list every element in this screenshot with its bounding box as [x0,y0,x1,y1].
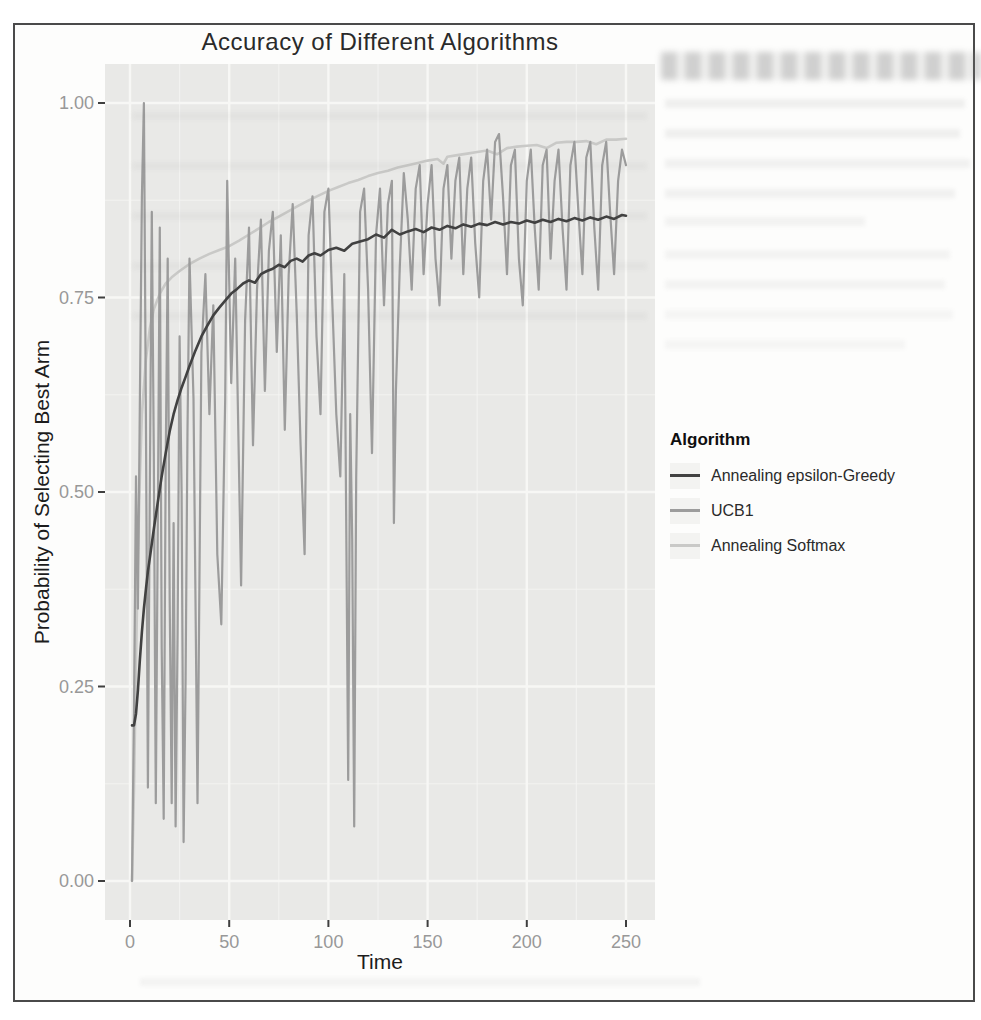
legend-key [670,533,700,559]
legend-label: UCB1 [711,502,754,520]
legend-title: Algorithm [670,430,895,450]
bleedthrough-band-ghost [132,162,647,170]
epsilon-greedy-line-swatch-icon [670,474,700,477]
legend-key [670,463,700,489]
legend-label: Annealing Softmax [711,537,845,555]
bleedthrough-band-ghost [132,212,647,220]
legend-item: Annealing epsilon-Greedy [670,458,895,493]
y-tick-label: 0.75 [32,288,94,309]
legend-item: UCB1 [670,493,895,528]
softmax-line-swatch-icon [670,544,700,547]
y-tick-label: 0.00 [32,871,94,892]
legend-label: Annealing epsilon-Greedy [711,467,895,485]
bleedthrough-band-ghost [132,312,647,320]
legend-item: Annealing Softmax [670,528,895,563]
y-tick-label: 0.25 [32,677,94,698]
legend: Algorithm Annealing epsilon-Greedy UCB1 … [670,430,895,563]
legend-key [670,498,700,524]
x-axis-title: Time [105,950,655,974]
bleedthrough-band-ghost [132,262,647,270]
bleedthrough-band-ghost [132,112,647,120]
y-axis-title: Probability of Selecting Best Arm [30,340,54,645]
bleedthrough-band-ghost [140,978,700,986]
y-tick-label: 1.00 [32,93,94,114]
ucb1-line-swatch-icon [670,509,700,512]
